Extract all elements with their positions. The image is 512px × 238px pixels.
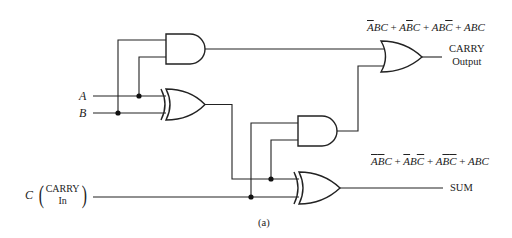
input-b-label: B: [79, 107, 86, 119]
sum-t3-c: C: [449, 155, 456, 167]
junction-dot-c: [248, 194, 253, 199]
or-gate: [381, 41, 422, 72]
xor-gate-1-back-curve: [161, 89, 165, 120]
carry-in-note-line1: CARRY: [46, 184, 80, 194]
right-paren: ): [81, 182, 86, 208]
sum-t1-c: C: [384, 155, 391, 167]
xor-gate-1: [166, 89, 205, 120]
sum-t4-c: C: [482, 155, 489, 167]
full-adder-diagram: A B C (CARRYIn) ABC + ABC + ABC + ABC CA…: [0, 0, 512, 238]
sum-expression: ABC + ABC + ABC + ABC: [371, 156, 489, 167]
sum-t2-b: B: [410, 155, 417, 167]
sum-output-label: SUM: [450, 183, 473, 194]
carry-t2-b: B: [406, 21, 413, 33]
wire-and2-to-or: [337, 66, 386, 131]
carry-t1-c: C: [380, 21, 387, 33]
and-gate-2: [298, 116, 337, 146]
input-c-label-group: C (CARRYIn): [25, 182, 88, 208]
xor-gate-2-back-curve: [294, 172, 298, 204]
plus-sign: +: [391, 21, 397, 33]
plus-sign: +: [423, 21, 429, 33]
sum-t2-c: C: [417, 155, 424, 167]
junction-dot-b: [115, 110, 120, 115]
carry-t1-a: A: [367, 21, 374, 33]
sum-t4-a: A: [468, 155, 475, 167]
input-c-label: C: [25, 188, 33, 202]
carry-in-note-line2: In: [46, 196, 80, 206]
wire-c-to-and2: [251, 123, 298, 197]
carry-t3-c: C: [445, 21, 452, 33]
carry-t4-c: C: [478, 21, 485, 33]
plus-sign: +: [427, 155, 433, 167]
left-paren: (: [39, 182, 44, 208]
input-a-label: A: [79, 90, 86, 102]
carry-t4-b: B: [471, 21, 478, 33]
plus-sign: +: [455, 21, 461, 33]
junction-dot-a: [136, 93, 141, 98]
carry-output-label-line2: Output: [449, 57, 485, 68]
carry-output-label: CARRY Output: [449, 44, 485, 67]
sum-t1-a: A: [371, 155, 378, 167]
plus-sign: +: [459, 155, 465, 167]
plus-sign: +: [395, 155, 401, 167]
wire-b-to-and1: [118, 40, 166, 113]
carry-expression: ABC + ABC + ABC + ABC: [367, 22, 485, 33]
wire-xor1-to-xor2: [205, 105, 299, 180]
carry-output-label-line1: CARRY: [449, 44, 485, 55]
junction-dot-xor1: [268, 176, 273, 181]
carry-t4-a: A: [464, 21, 471, 33]
sum-t4-b: B: [475, 155, 482, 167]
xor-gate-2: [299, 172, 340, 204]
carry-t2-c: C: [413, 21, 420, 33]
carry-in-note: CARRYIn: [46, 184, 80, 206]
figure-caption: (a): [258, 218, 270, 229]
and-gate-1: [166, 34, 205, 64]
